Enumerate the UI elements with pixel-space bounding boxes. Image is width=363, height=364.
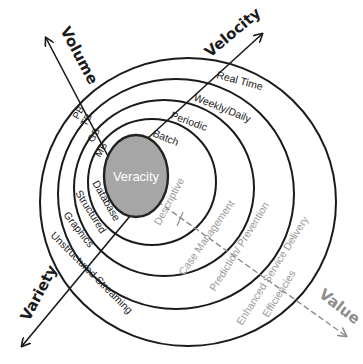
big-data-diagram: Veracity Volume Velocity Variety Value M…: [0, 0, 363, 364]
variety-title: Variety: [17, 262, 61, 324]
velocity-level-periodic: Periodic: [169, 109, 209, 133]
value-title: Value: [316, 285, 363, 328]
diagram-svg: Veracity Volume Velocity Variety Value M…: [0, 0, 363, 364]
velocity-title: Velocity: [201, 4, 264, 61]
veracity-label: Veracity: [113, 169, 160, 184]
volume-title: Volume: [56, 23, 101, 87]
